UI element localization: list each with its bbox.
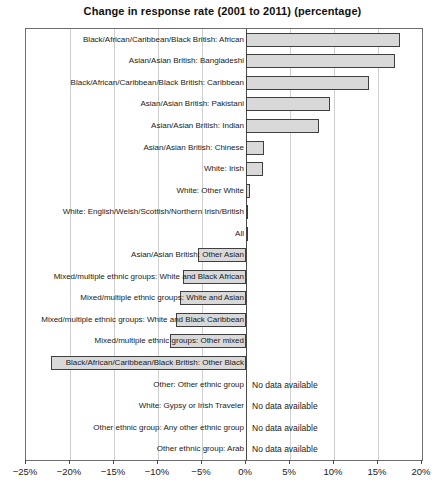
category-label: Mixed/multiple ethnic groups: Other mixe… (95, 337, 244, 345)
category-label: Asian/Asian British: Bangladeshi (129, 57, 244, 65)
chart-row: Asian/Asian British: Chinese (26, 137, 422, 159)
bar (246, 205, 248, 219)
x-tick-mark (245, 460, 246, 464)
category-label: Other ethnic group: Any other ethnic gro… (93, 424, 244, 432)
x-tick-label: 0% (223, 466, 267, 477)
category-label: Other: Other ethnic group (153, 381, 244, 389)
x-tick-mark (113, 460, 114, 464)
chart-row: No data availableWhite: Gypsy or Irish T… (26, 395, 422, 417)
x-tick-label: 5% (267, 466, 311, 477)
x-tick-label: 15% (355, 466, 399, 477)
category-label: Black/African/Caribbean/Black British: O… (66, 359, 244, 367)
category-label: Other ethnic group: Arab (157, 445, 244, 453)
category-label: White: English/Welsh/Scottish/Northern I… (63, 208, 244, 216)
zero-line (246, 29, 247, 460)
chart-row: White: Irish (26, 158, 422, 180)
x-tick-label: −15% (91, 466, 135, 477)
x-tick-label: 10% (311, 466, 355, 477)
chart-row: No data availableOther ethnic group: Ara… (26, 438, 422, 460)
x-tick-mark (69, 460, 70, 464)
category-label: Asian/Asian British: Other Asian (131, 251, 244, 259)
x-tick-mark (25, 460, 26, 464)
category-label: White: Other White (176, 187, 244, 195)
chart-row: Asian/Asian British: Indian (26, 115, 422, 137)
no-data-label: No data available (252, 423, 318, 432)
bar (246, 227, 248, 241)
chart-figure: Change in response rate (2001 to 2011) (… (0, 0, 445, 488)
category-label: Black/African/Caribbean/Black British: C… (71, 79, 244, 87)
category-label: All (235, 230, 244, 238)
chart-row: Mixed/multiple ethnic groups: White and … (26, 309, 422, 331)
bar (246, 33, 400, 47)
chart-row: No data availableOther ethnic group: Any… (26, 417, 422, 439)
x-tick-mark (289, 460, 290, 464)
chart-row: Asian/Asian British: Bangladeshi (26, 51, 422, 73)
bar (246, 119, 319, 133)
chart-row: All (26, 223, 422, 245)
x-tick-mark (201, 460, 202, 464)
bar (246, 162, 263, 176)
chart-row: Black/African/Caribbean/Black British: A… (26, 29, 422, 51)
x-tick-mark (377, 460, 378, 464)
chart-row: Asian/Asian British: Pakistani (26, 94, 422, 116)
plot-area: Black/African/Caribbean/Black British: A… (25, 28, 423, 461)
chart-title: Change in response rate (2001 to 2011) (… (0, 5, 445, 17)
no-data-label: No data available (252, 380, 318, 389)
no-data-label: No data available (252, 445, 318, 454)
x-tick-label: 20% (399, 466, 443, 477)
x-tick-label: −25% (3, 466, 47, 477)
bar (246, 184, 250, 198)
chart-row: No data availableOther: Other ethnic gro… (26, 374, 422, 396)
category-label: Asian/Asian British: Indian (151, 122, 244, 130)
no-data-label: No data available (252, 402, 318, 411)
category-label: Mixed/multiple ethnic groups: White and … (80, 294, 244, 302)
chart-row: Black/African/Caribbean/Black British: O… (26, 352, 422, 374)
category-label: White: Gypsy or Irish Traveler (139, 402, 244, 410)
chart-row: Mixed/multiple ethnic groups: White and … (26, 266, 422, 288)
category-label: Asian/Asian British: Chinese (144, 144, 245, 152)
category-label: Black/African/Caribbean/Black British: A… (83, 36, 244, 44)
x-tick-label: −10% (135, 466, 179, 477)
chart-row: White: Other White (26, 180, 422, 202)
bar (246, 141, 264, 155)
bar (246, 97, 330, 111)
category-label: Mixed/multiple ethnic groups: White and … (41, 316, 244, 324)
category-label: White: Irish (204, 165, 244, 173)
x-tick-mark (157, 460, 158, 464)
chart-row: Mixed/multiple ethnic groups: White and … (26, 288, 422, 310)
bar (246, 54, 395, 68)
category-label: Asian/Asian British: Pakistani (140, 100, 244, 108)
chart-row: Mixed/multiple ethnic groups: Other mixe… (26, 331, 422, 353)
bar (246, 76, 369, 90)
chart-row: Black/African/Caribbean/Black British: C… (26, 72, 422, 94)
category-label: Mixed/multiple ethnic groups: White and … (54, 273, 244, 281)
x-tick-mark (421, 460, 422, 464)
x-tick-mark (333, 460, 334, 464)
x-tick-label: −5% (179, 466, 223, 477)
chart-row: White: English/Welsh/Scottish/Northern I… (26, 201, 422, 223)
x-tick-label: −20% (47, 466, 91, 477)
chart-row: Asian/Asian British: Other Asian (26, 245, 422, 267)
